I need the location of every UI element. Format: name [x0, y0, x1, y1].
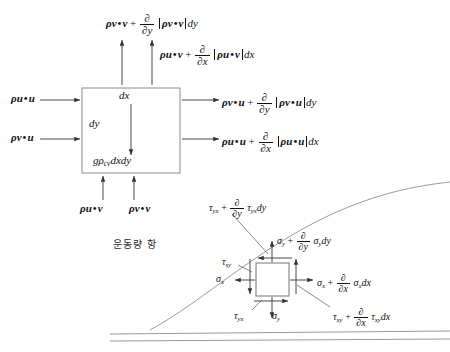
partial-derivative-fraction: ∂ ∂x	[259, 131, 273, 154]
flux-label-bottom-right: ρv•v	[129, 203, 150, 214]
partial-derivative-fraction: ∂ ∂x	[195, 44, 209, 67]
stress-label-sigma-y-bottom: σy	[272, 311, 280, 323]
leader-tau-yx-bottom	[252, 300, 262, 310]
partial-derivative-fraction: ∂ ∂y	[230, 198, 243, 219]
figure-canvas: ρv•v + ∂ ∂y ρv•vdy ρu•v + ∂ ∂x ρu•vdx ρu…	[0, 0, 450, 352]
partial-derivative-fraction: ∂ ∂x	[354, 307, 367, 328]
flux-label-left-upper: ρu•u	[11, 93, 35, 104]
flux-label-right-upper: ρv•u + ∂ ∂y ρv•udy	[222, 92, 316, 115]
flux-label-left-lower: ρv•u	[11, 132, 34, 143]
partial-derivative-fraction: ∂ ∂y	[140, 13, 154, 36]
flux-label-top-left: ρv•v + ∂ ∂y ρv•vdy	[106, 13, 198, 36]
boundary-layer-curve	[150, 182, 450, 330]
control-volume-dx-label: dx	[119, 90, 129, 101]
stress-label-tau-sy-left: τsy	[222, 257, 231, 269]
stress-label-tau-xy-right: τxy + ∂ ∂x τxydx	[333, 307, 390, 328]
flux-label-bottom-left: ρu•v	[80, 203, 103, 214]
wall-line-upper	[110, 331, 450, 334]
stress-label-sigma-x-left: σx	[216, 274, 224, 286]
control-volume-dy-label: dy	[89, 118, 99, 129]
body-force-label: gρcvdxdy	[93, 155, 131, 168]
partial-derivative-fraction: ∂ ∂y	[257, 92, 271, 115]
flux-label-right-lower: ρu•u + ∂ ∂x ρu•udx	[222, 131, 319, 154]
partial-derivative-fraction: ∂ ∂y	[297, 231, 310, 252]
partial-derivative-fraction: ∂ ∂x	[337, 273, 350, 294]
stress-label-tau-yx-bottom: τyx	[234, 311, 244, 323]
stress-label-tau-yx-top: τyx + ∂ ∂y τyxdy	[209, 198, 266, 219]
leader-tau-yx-top	[232, 214, 268, 254]
stress-element-square	[256, 263, 289, 296]
flux-label-top-right: ρu•v + ∂ ∂x ρu•vdx	[160, 44, 254, 67]
wall-line-lower	[110, 339, 450, 341]
korean-annotation: 운동량 항	[113, 240, 157, 250]
stress-label-sigma-y-top: σy + ∂ ∂y σydy	[277, 231, 331, 252]
stress-label-sigma-x-right: σx + ∂ ∂x σxdx	[317, 273, 371, 294]
